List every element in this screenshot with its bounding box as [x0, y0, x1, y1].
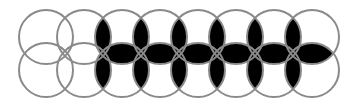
circle-pattern-diagram: [0, 0, 352, 107]
